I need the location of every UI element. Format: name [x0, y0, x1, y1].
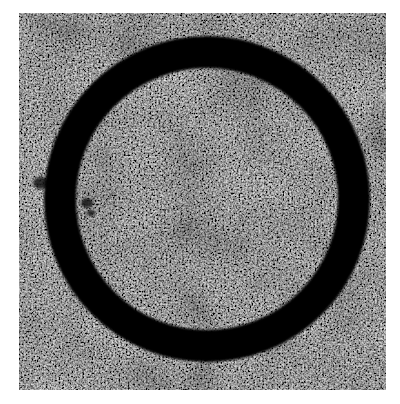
texture-canvas [19, 13, 386, 390]
dark-spot [81, 198, 93, 208]
textured-photo [19, 13, 386, 390]
image-frame [0, 0, 400, 404]
dark-spot [87, 210, 95, 216]
